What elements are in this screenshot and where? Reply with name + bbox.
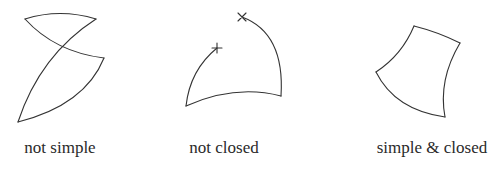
simple-closed-curve (376, 26, 460, 117)
not-simple-curve (18, 14, 104, 123)
not-simple-label: not simple (24, 138, 95, 158)
not-closed-label: not closed (189, 138, 258, 158)
simple-closed-label: simple & closed (377, 138, 487, 158)
x-marker-icon (238, 13, 246, 21)
not-closed-curve (186, 17, 281, 106)
